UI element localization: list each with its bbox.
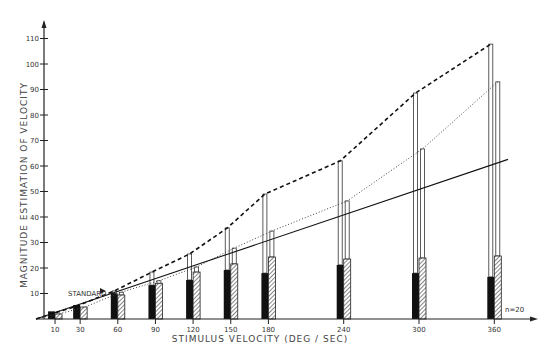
- open-bar: [338, 161, 342, 265]
- open-bar: [421, 149, 425, 258]
- hatched-bar: [193, 272, 200, 319]
- x-tick-label: 60: [113, 326, 122, 334]
- solid-bar: [111, 294, 118, 320]
- open-bar: [496, 82, 500, 256]
- x-tick-label: 30: [76, 326, 85, 334]
- y-axis-title: MAGNITUDE ESTIMATION OF VELOCITY: [19, 82, 29, 288]
- y-tick-label: 90: [30, 86, 39, 94]
- y-tick-label: 40: [30, 214, 39, 222]
- y-tick-label: 80: [30, 112, 39, 120]
- y-tick-label: 30: [30, 239, 39, 247]
- open-bar: [489, 44, 493, 277]
- solid-bar: [412, 273, 419, 319]
- x-ticks: 10306090120150180240300360: [51, 319, 501, 334]
- hatched-bar: [494, 256, 501, 319]
- hatched-bar: [268, 257, 275, 319]
- x-tick-label: 180: [262, 326, 275, 334]
- x-tick-label: 150: [224, 326, 237, 334]
- open-bar: [232, 248, 236, 264]
- solid-bar: [261, 273, 268, 319]
- hatched-bar: [55, 314, 62, 319]
- x-tick-label: 120: [186, 326, 199, 334]
- solid-bar: [148, 285, 155, 319]
- y-axis-arrow-icon: [42, 20, 47, 28]
- open-bar: [345, 201, 349, 259]
- hatched-bar: [344, 259, 351, 319]
- hatched-bar: [80, 307, 87, 319]
- solid-bar: [487, 277, 494, 319]
- x-tick-label: 360: [488, 326, 501, 334]
- y-tick-label: 20: [30, 265, 39, 273]
- y-tick-label: 10: [30, 290, 39, 298]
- solid-bar: [337, 265, 344, 319]
- solid-bar: [186, 280, 193, 319]
- hatched-bar: [118, 295, 125, 319]
- y-tick-label: 50: [30, 188, 39, 196]
- x-tick-label: 10: [51, 326, 60, 334]
- solid-bar: [224, 270, 231, 319]
- x-axis-title: STIMULUS VELOCITY (DEG / SEC): [172, 334, 348, 344]
- x-tick-label: 90: [151, 326, 160, 334]
- hatched-bar: [231, 264, 238, 319]
- y-tick-label: 70: [30, 137, 39, 145]
- x-tick-label: 240: [337, 326, 350, 334]
- x-tick-label: 300: [412, 326, 425, 334]
- y-tick-label: 60: [30, 163, 39, 171]
- open-bar: [414, 93, 418, 273]
- open-bar: [195, 267, 199, 272]
- open-bar: [225, 228, 229, 270]
- hatched-bar: [419, 258, 426, 319]
- axes: [36, 20, 538, 322]
- chart: 102030405060708090100110 103060901201501…: [0, 0, 542, 354]
- y-tick-label: 110: [26, 35, 39, 43]
- hatched-bar: [155, 283, 162, 319]
- bars-group: [48, 44, 501, 319]
- n-label: n=20: [505, 306, 524, 314]
- open-bar: [119, 292, 123, 295]
- open-bar: [270, 231, 274, 257]
- x-axis-arrow-icon: [530, 317, 538, 322]
- y-tick-label: 100: [26, 61, 39, 69]
